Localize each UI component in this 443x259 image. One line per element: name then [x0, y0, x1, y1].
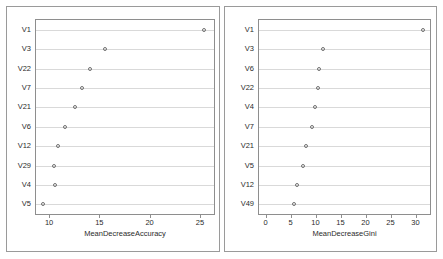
y-axis-tick-label: V7 [245, 123, 254, 131]
x-axis-tick-label: 10 [311, 219, 319, 227]
y-axis-tick-label: V6 [22, 123, 31, 131]
gridline [36, 146, 214, 147]
y-axis-tick-label: V3 [22, 45, 31, 53]
data-point [53, 183, 57, 187]
data-point [316, 86, 320, 90]
panel-mean-decrease-gini: V1V3V6V22V4V7V21V5V12V49051015202530Mean… [224, 6, 437, 252]
y-axis-tick-label: V1 [22, 26, 31, 34]
data-point [103, 47, 107, 51]
gridline [36, 107, 214, 108]
x-axis-tick-label: 20 [361, 219, 369, 227]
y-axis-tick-label: V22 [241, 84, 254, 92]
gridline [259, 146, 430, 147]
gridline [36, 30, 214, 31]
gridline [259, 30, 430, 31]
x-axis-title: MeanDecreaseGini [312, 230, 376, 238]
variable-importance-figure: V1V3V22V7V21V6V12V29V4V510152025MeanDecr… [0, 0, 443, 259]
data-point [295, 183, 299, 187]
y-axis-tick-label: V3 [245, 45, 254, 53]
x-axis-tick-label: 15 [95, 219, 103, 227]
y-axis-tick-label: V4 [22, 181, 31, 189]
x-axis-tick-label: 5 [288, 219, 292, 227]
x-axis-tick-label: 30 [411, 219, 419, 227]
y-axis-tick-label: V49 [241, 201, 254, 209]
data-point [52, 164, 56, 168]
data-point [41, 202, 45, 206]
gridline [259, 185, 430, 186]
x-axis-tick-label: 20 [145, 219, 153, 227]
data-point [301, 164, 305, 168]
y-axis-tick-label: V7 [22, 84, 31, 92]
y-axis-tick-label: V21 [241, 142, 254, 150]
data-point [63, 125, 67, 129]
x-axis-title: MeanDecreaseAccuracy [84, 230, 166, 238]
x-axis-tick-label: 10 [45, 219, 53, 227]
gridline [259, 166, 430, 167]
gridline [36, 88, 214, 89]
y-axis-tick-label: V4 [245, 104, 254, 112]
data-point [202, 28, 206, 32]
y-axis-tick-label: V12 [241, 181, 254, 189]
gridline [259, 88, 430, 89]
y-axis-tick-label: V1 [245, 26, 254, 34]
gridline [259, 49, 430, 50]
data-point [80, 86, 84, 90]
data-point [313, 105, 317, 109]
data-point [292, 202, 296, 206]
y-axis-tick-label: V5 [22, 201, 31, 209]
data-point [321, 47, 325, 51]
gridline [36, 166, 214, 167]
data-point [56, 144, 60, 148]
gridline [259, 204, 430, 205]
data-point [421, 28, 425, 32]
y-axis-tick-label: V12 [18, 142, 31, 150]
gridline [259, 69, 430, 70]
plot-area-right: V1V3V6V22V4V7V21V5V12V49051015202530Mean… [258, 19, 431, 215]
x-axis-tick-label: 25 [386, 219, 394, 227]
data-point [310, 125, 314, 129]
y-axis-tick-label: V6 [245, 65, 254, 73]
data-point [304, 144, 308, 148]
x-axis-tick-label: 25 [196, 219, 204, 227]
gridline [36, 204, 214, 205]
data-point [73, 105, 77, 109]
x-axis-tick-label: 15 [336, 219, 344, 227]
gridline [36, 69, 214, 70]
y-axis-tick-label: V22 [18, 65, 31, 73]
x-axis-tick-label: 0 [263, 219, 267, 227]
y-axis-tick-label: V29 [18, 162, 31, 170]
gridline [259, 127, 430, 128]
gridline [259, 107, 430, 108]
panel-mean-decrease-accuracy: V1V3V22V7V21V6V12V29V4V510152025MeanDecr… [6, 6, 220, 252]
y-axis-tick-label: V5 [245, 162, 254, 170]
data-point [317, 67, 321, 71]
gridline [36, 49, 214, 50]
plot-area-left: V1V3V22V7V21V6V12V29V4V510152025MeanDecr… [35, 19, 215, 215]
y-axis-tick-label: V21 [18, 104, 31, 112]
data-point [88, 67, 92, 71]
gridline [36, 185, 214, 186]
